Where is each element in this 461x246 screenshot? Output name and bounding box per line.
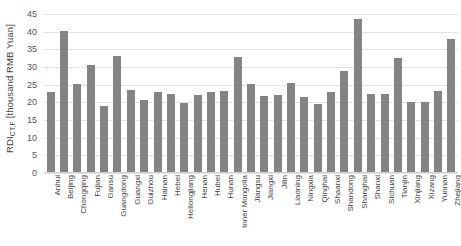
bar[interactable] [73, 84, 81, 173]
bar[interactable] [87, 65, 95, 173]
x-axis-tick-label: Xinjiang [414, 175, 422, 203]
bar[interactable] [421, 102, 429, 173]
bar[interactable] [287, 83, 295, 173]
bar[interactable] [381, 94, 389, 173]
x-axis-tick-label: Shanghai [361, 175, 369, 209]
bar[interactable] [194, 95, 202, 173]
y-axis-title-subscript: CT,F [9, 121, 16, 136]
y-axis-title-main: RDI [4, 136, 15, 153]
x-axis-tick-label: Hainan [161, 175, 169, 200]
bar[interactable] [367, 94, 375, 173]
x-axis-tick-label: Guangdong [120, 175, 128, 217]
bar[interactable] [167, 94, 175, 174]
bar[interactable] [180, 103, 188, 173]
x-axis-tick-label: Shaanxi [334, 175, 342, 204]
bar[interactable] [127, 90, 135, 173]
bar[interactable] [340, 71, 348, 173]
x-axis-tick-label: Guangxi [134, 175, 142, 205]
x-axis-tick-label: Sichuan [388, 175, 396, 204]
bar[interactable] [260, 96, 268, 173]
x-axis-tick-label: Yunnan [441, 175, 449, 202]
y-axis-tick-label: 35 [27, 45, 37, 54]
y-axis-tick-label: 40 [27, 27, 37, 36]
x-axis-tick-label: Heilongjiang [187, 175, 195, 219]
x-axis-tick-label: Qinghai [321, 175, 329, 203]
x-axis-tick-label: Shandong [347, 175, 355, 211]
bar[interactable] [220, 91, 228, 173]
bar[interactable] [207, 92, 215, 173]
bar[interactable] [47, 92, 55, 173]
x-axis-tick-label: Jiangxi [267, 175, 275, 200]
x-axis-tick-label: Ningxia [307, 175, 315, 202]
bar[interactable] [300, 97, 308, 173]
bar[interactable] [354, 19, 362, 173]
bar[interactable] [113, 56, 121, 173]
bar[interactable] [247, 84, 255, 173]
bar[interactable] [447, 39, 455, 173]
y-axis-title-unit: [thousand RMB Yuan] [4, 24, 15, 121]
bar[interactable] [154, 92, 162, 173]
y-axis-tick-label: 10 [27, 133, 37, 142]
bar-chart: RDICT,F [thousand RMB Yuan] 051015202530… [0, 0, 461, 246]
x-axis-tick-label: Henan [201, 175, 209, 199]
bar[interactable] [327, 92, 335, 173]
bars-container [44, 14, 458, 173]
bar[interactable] [434, 91, 442, 173]
y-axis-tick-label: 0 [32, 169, 37, 178]
x-axis-tick-label: Hunan [227, 175, 235, 199]
x-axis-tick-label: Gansu [107, 175, 115, 199]
gridline [44, 173, 458, 174]
x-axis-line [44, 172, 458, 173]
y-axis-tick-label: 30 [27, 63, 37, 72]
x-axis-tick-label: Tianjin [401, 175, 409, 198]
x-axis-tick-label: Anhui [54, 175, 62, 195]
x-axis-tick-label: Chongqing [80, 175, 88, 214]
x-axis-tick-label: Jilin [281, 175, 289, 189]
x-axis-tick-label: Xizang [428, 175, 436, 199]
x-axis-tick-label: Zhejiang [454, 175, 461, 206]
x-axis-tick-label: Shanxi [374, 175, 382, 199]
x-axis-tick-label: Jiangsu [254, 175, 262, 203]
x-axis-tick-labels: AnhuiBeijingChongqingFujianGansuGuangdon… [44, 175, 458, 246]
y-axis-tick-label: 45 [27, 10, 37, 19]
y-axis-title-text: RDICT,F [thousand RMB Yuan] [4, 24, 15, 153]
x-axis-tick-label: Hebei [174, 175, 182, 196]
bar[interactable] [100, 106, 108, 173]
bar[interactable] [407, 102, 415, 173]
x-axis-tick-label: Beijing [67, 175, 75, 199]
y-axis-tick-label: 20 [27, 98, 37, 107]
bar[interactable] [140, 100, 148, 173]
x-axis-tick-label: Inner Mongolia [241, 175, 249, 228]
x-axis-tick-label: Guizhou [147, 175, 155, 205]
x-axis-tick-label: Fujian [94, 175, 102, 197]
plot-area [44, 14, 458, 173]
bar[interactable] [60, 31, 68, 173]
bar[interactable] [394, 58, 402, 173]
x-axis-tick-label: Liaoning [294, 175, 302, 205]
bar[interactable] [274, 95, 282, 173]
y-axis-tick-label: 5 [32, 151, 37, 160]
bar[interactable] [234, 57, 242, 173]
x-axis-tick-label: Hubei [214, 175, 222, 196]
y-axis-tick-label: 25 [27, 80, 37, 89]
y-axis-tick-labels: 051015202530354045 [16, 14, 40, 173]
bar[interactable] [314, 104, 322, 173]
y-axis-tick-label: 15 [27, 116, 37, 125]
